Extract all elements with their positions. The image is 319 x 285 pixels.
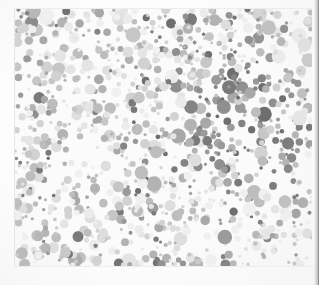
page-edge-line: [318, 0, 319, 285]
dot-mosaic-canvas: [15, 9, 312, 266]
scan-page: [0, 0, 319, 285]
plate-top-edge-line: [14, 8, 312, 9]
ishihara-plate-field: [15, 9, 312, 266]
plate-bottom-edge-line: [14, 266, 312, 267]
plate-left-edge-line: [14, 8, 15, 267]
